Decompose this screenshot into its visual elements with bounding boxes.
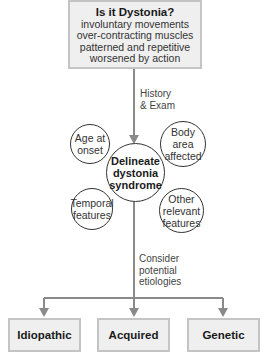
circle-label: Temporal <box>70 197 113 209</box>
criterion-line: worsened by action <box>90 53 180 65</box>
circle-label: features <box>163 217 201 229</box>
circle-label: relevant <box>163 205 200 217</box>
leaf-label: Idiopathic <box>17 329 71 341</box>
edge-label-line: etiologies <box>139 276 181 288</box>
edge-label-line: Consider <box>139 253 181 265</box>
leaf-label: Genetic <box>202 329 244 341</box>
circle-label: Other <box>168 193 194 205</box>
delineate-syndrome-circle: Delineatedystoniasyndrome <box>106 143 165 202</box>
circle-label: features <box>73 209 111 221</box>
age-at-onset-circle: Age atonset <box>70 124 110 164</box>
acquired-box: Acquired <box>97 318 170 352</box>
circle-label: onset <box>77 144 103 156</box>
idiopathic-box: Idiopathic <box>8 318 81 352</box>
is-it-dystonia-box: Is it Dystonia? involuntary movements ov… <box>68 0 202 69</box>
criterion-line: over-contracting muscles <box>77 30 194 42</box>
body-area-circle: Body areaaffected <box>160 121 206 167</box>
circle-label: Age at <box>75 132 105 144</box>
center-label: syndrome <box>109 179 162 191</box>
circle-label: affected <box>164 150 201 162</box>
edge-label-line: History <box>140 88 175 100</box>
leaf-label: Acquired <box>109 329 159 341</box>
edge-label-line: & Exam <box>140 100 175 112</box>
consider-etiologies-label: Consider potential etiologies <box>139 253 181 288</box>
edge-label-line: potential <box>139 265 181 277</box>
circle-label: Body area <box>171 126 195 150</box>
other-features-circle: Otherrelevantfeatures <box>159 188 204 233</box>
genetic-box: Genetic <box>187 318 260 352</box>
temporal-features-circle: Temporalfeatures <box>71 188 113 230</box>
history-exam-label: History & Exam <box>140 88 175 111</box>
center-label: Delineate <box>111 155 160 167</box>
center-label: dystonia <box>113 167 158 179</box>
top-box-title: Is it Dystonia? <box>96 5 175 19</box>
